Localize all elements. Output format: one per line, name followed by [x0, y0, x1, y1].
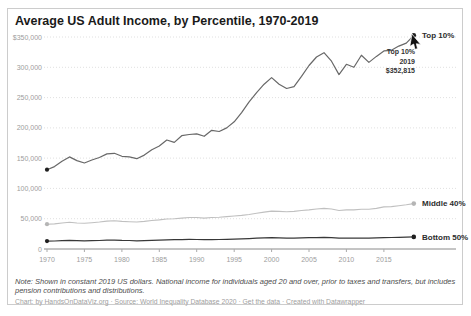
x-tick-label: 1990 [189, 256, 205, 263]
series-label-bottom-50: Bottom 50% [422, 233, 468, 242]
get-the-data-link[interactable]: Get the data [243, 298, 280, 305]
series-line-middle-40 [47, 204, 414, 225]
x-tick-label: 1995 [226, 256, 242, 263]
chart-title: Average US Adult Income, by Percentile, … [15, 14, 318, 28]
series-start-dot-top-10 [45, 168, 49, 172]
hover-tooltip: Top 10% 2019 $352,815 [386, 47, 415, 76]
y-tick-label: 0 [38, 246, 42, 253]
chart-note: Note: Shown in constant 2019 US dollars.… [15, 277, 457, 295]
y-tick-label: 250,000 [17, 94, 42, 101]
chart-footer: Chart: by HandsOnDataViz.org · Source: W… [15, 298, 457, 305]
x-tick-label: 1980 [114, 256, 130, 263]
footer-credit: Chart: by HandsOnDataViz.org · Source: W… [15, 298, 243, 305]
mouse-cursor-icon [410, 34, 424, 51]
series-end-dot-middle-40 [412, 201, 417, 206]
series-end-dot-bottom-50 [412, 235, 417, 240]
x-tick-label: 2010 [339, 256, 355, 263]
y-tick-label: 50,000 [21, 215, 43, 222]
y-tick-label: 300,000 [17, 64, 42, 71]
series-line-bottom-50 [47, 237, 414, 241]
y-tick-label: 100,000 [17, 185, 42, 192]
chart-frame: 050,000100,000150,000200,000250,000300,0… [7, 8, 463, 305]
x-tick-label: 2015 [376, 256, 392, 263]
series-label-top-10: Top 10% [422, 31, 454, 40]
x-tick-label: 2000 [264, 256, 280, 263]
series-start-dot-bottom-50 [45, 239, 49, 243]
x-tick-label: 2005 [301, 256, 317, 263]
y-tick-label: 200,000 [17, 124, 42, 131]
x-tick-label: 1970 [39, 256, 55, 263]
series-line-top-10 [47, 35, 414, 169]
x-tick-label: 1975 [77, 256, 93, 263]
tooltip-year: 2019 [386, 57, 415, 67]
series-label-middle-40: Middle 40% [422, 199, 466, 208]
series-start-dot-middle-40 [45, 222, 49, 226]
y-tick-label: 150,000 [17, 155, 42, 162]
y-tick-label: $350,000 [13, 34, 42, 41]
x-tick-label: 1985 [152, 256, 168, 263]
tooltip-value: $352,815 [386, 66, 415, 76]
footer-suffix: · Created with Datawrapper [280, 298, 365, 305]
chart-canvas: { "title": "Average US Adult Income, by … [0, 0, 471, 316]
